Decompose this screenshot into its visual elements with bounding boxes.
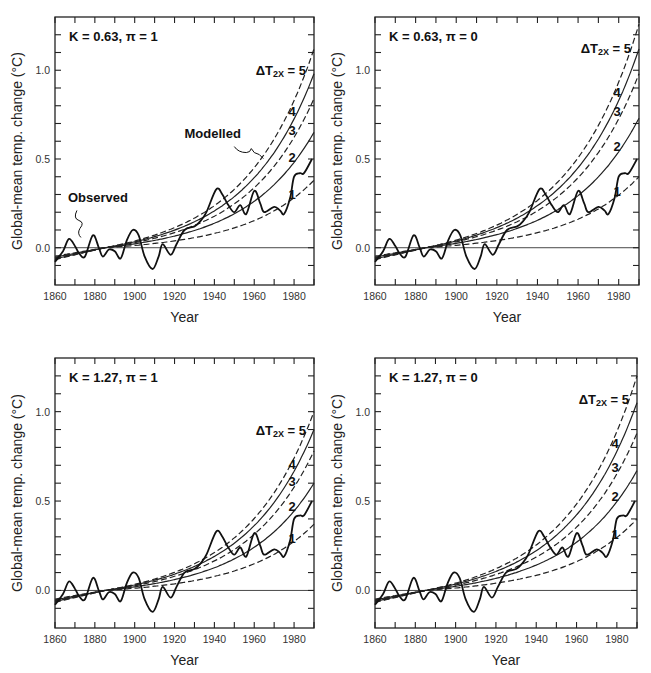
model-curve-dt2x-5	[55, 49, 314, 256]
y-tick-label: 0.0	[35, 242, 50, 254]
x-tick-label: 1860	[43, 633, 67, 645]
x-tick-label: 1860	[43, 290, 67, 302]
x-tick-label: 1980	[605, 633, 629, 645]
x-tick-label: 1980	[282, 633, 306, 645]
x-axis-title: Year	[493, 309, 522, 325]
y-tick-label: 1.0	[355, 64, 370, 76]
modelled-annotation: Modelled	[185, 126, 241, 141]
x-tick-label: 1900	[445, 290, 469, 302]
x-tick-label: 1920	[163, 633, 187, 645]
y-axis-title: Global-mean temp. change (°C)	[9, 394, 25, 592]
panel-bottom-right: 18601880190019201940196019800.00.51.0Yea…	[320, 336, 651, 673]
curve-label-2: 2	[288, 150, 295, 165]
model-curve-dt2x-4	[55, 430, 314, 600]
panel-title: K = 0.63, π = 1	[69, 29, 158, 44]
y-tick-label: 1.0	[35, 406, 50, 418]
dt2x-legend-label: ΔT2X = 5	[581, 41, 631, 57]
y-tick-label: 1.0	[355, 406, 370, 418]
y-tick-label: 0.5	[355, 153, 370, 165]
panel-top-right: 18601880190019201940196019800.00.51.0Yea…	[320, 0, 651, 336]
x-tick-label: 1900	[444, 633, 468, 645]
x-tick-label: 1960	[565, 633, 589, 645]
panel-title: K = 1.27, π = 0	[389, 370, 478, 385]
x-tick-label: 1900	[123, 290, 147, 302]
x-axis-title: Year	[170, 652, 199, 668]
x-tick-label: 1940	[203, 633, 227, 645]
chart-k127-pi1: 18601880190019201940196019800.00.51.0Yea…	[0, 336, 325, 673]
modelled-pointer	[234, 147, 263, 159]
y-tick-label: 0.0	[355, 242, 370, 254]
x-tick-label: 1920	[485, 290, 509, 302]
y-tick-label: 1.0	[35, 64, 50, 76]
observed-curve	[375, 159, 637, 269]
x-tick-label: 1960	[243, 290, 267, 302]
x-tick-label: 1860	[363, 633, 387, 645]
model-curve-dt2x-2	[375, 471, 637, 602]
x-tick-label: 1980	[607, 290, 631, 302]
y-tick-label: 0.5	[355, 495, 370, 507]
x-axis-title: Year	[492, 652, 521, 668]
model-curve-dt2x-5	[375, 24, 639, 256]
curve-label-3: 3	[288, 474, 295, 489]
model-curve-dt2x-1	[375, 177, 639, 260]
observed-curve	[55, 501, 312, 612]
observed-curve	[375, 501, 635, 612]
x-tick-label: 1940	[526, 290, 550, 302]
model-curve-dt2x-2	[375, 118, 639, 259]
model-curve-dt2x-1	[375, 519, 637, 603]
x-tick-label: 1960	[566, 290, 590, 302]
dt2x-legend-label: ΔT2X = 5	[579, 392, 629, 408]
x-tick-label: 1880	[83, 633, 107, 645]
curve-label-2: 2	[613, 139, 620, 154]
x-tick-label: 1860	[363, 290, 387, 302]
chart-k063-pi1: 18601880190019201940196019800.00.51.0Yea…	[0, 0, 325, 336]
panel-title: K = 1.27, π = 1	[69, 370, 158, 385]
y-tick-label: 0.0	[355, 584, 370, 596]
plot-frame	[55, 358, 314, 628]
curve-label-4: 4	[611, 436, 619, 451]
chart-k127-pi0: 18601880190019201940196019800.00.51.0Yea…	[320, 336, 651, 673]
dt2x-legend-label: ΔT2X = 5	[256, 423, 306, 439]
dt2x-legend-label: ΔT2X = 5	[256, 63, 306, 79]
panel-top-left: 18601880190019201940196019800.00.51.0Yea…	[0, 0, 325, 336]
curve-label-4: 4	[288, 104, 296, 119]
x-tick-label: 1880	[404, 290, 428, 302]
curve-label-3: 3	[611, 460, 618, 475]
curve-label-3: 3	[288, 123, 295, 138]
curve-label-4: 4	[613, 85, 621, 100]
model-curve-dt2x-5	[375, 376, 637, 599]
panel-title: K = 0.63, π = 0	[389, 29, 478, 44]
x-tick-label: 1940	[203, 290, 227, 302]
chart-k063-pi0: 18601880190019201940196019800.00.51.0Yea…	[320, 0, 651, 336]
x-tick-label: 1920	[163, 290, 187, 302]
model-curve-dt2x-4	[375, 403, 637, 600]
x-tick-label: 1880	[404, 633, 428, 645]
y-axis-title: Global-mean temp. change (°C)	[329, 52, 345, 250]
y-tick-label: 0.0	[35, 584, 50, 596]
x-tick-label: 1900	[123, 633, 147, 645]
y-axis-title: Global-mean temp. change (°C)	[9, 52, 25, 250]
observed-curve	[55, 159, 312, 269]
x-tick-label: 1980	[282, 290, 306, 302]
curve-label-3: 3	[613, 104, 620, 119]
x-tick-label: 1920	[484, 633, 508, 645]
curve-label-2: 2	[288, 499, 295, 514]
x-tick-label: 1960	[243, 633, 267, 645]
x-axis-title: Year	[170, 309, 199, 325]
curve-label-4: 4	[288, 457, 296, 472]
panel-bottom-left: 18601880190019201940196019800.00.51.0Yea…	[0, 336, 325, 673]
y-axis-title: Global-mean temp. change (°C)	[329, 394, 345, 592]
y-tick-label: 0.5	[35, 153, 50, 165]
x-tick-label: 1940	[525, 633, 549, 645]
observed-annotation: Observed	[68, 190, 128, 205]
x-tick-label: 1880	[83, 290, 107, 302]
curve-label-2: 2	[611, 489, 618, 504]
y-tick-label: 0.5	[35, 495, 50, 507]
observed-pointer	[75, 210, 82, 237]
